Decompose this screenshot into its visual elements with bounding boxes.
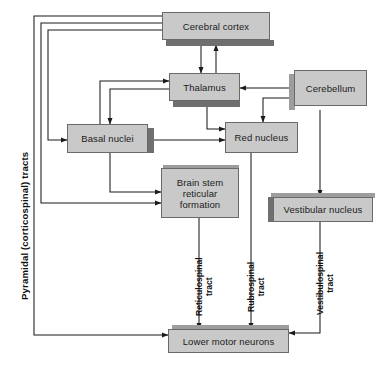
node-cerebral-cortex[interactable]: Cerebral cortex [162,12,270,40]
node-brain-stem-reticular-formation[interactable]: Brain stem reticular formation [161,168,239,218]
node-brain-stem-line-2: reticular [180,188,221,199]
node-red-nucleus[interactable]: Red nucleus [225,122,298,153]
basal-nuclei-shadow [148,128,154,153]
node-thalamus-label: Thalamus [180,82,229,93]
node-basal-nuclei-label: Basal nuclei [78,133,136,144]
pyramidal-tracts-label: Pyramidal (corticospinal) tracts [19,152,30,300]
node-lower-motor-neurons[interactable]: Lower motor neurons [168,329,289,353]
tract-vestibulospinal-line-2: tract [326,252,336,315]
tract-reticulospinal-line-2: tract [205,257,215,316]
node-red-nucleus-label: Red nucleus [232,132,292,143]
motor-pathway-diagram: Cerebral cortex Thalamus Cerebellum Basa… [0,0,390,369]
node-thalamus[interactable]: Thalamus [169,73,240,101]
node-lower-motor-neurons-label: Lower motor neurons [180,336,278,347]
node-brain-stem-line-1: Brain stem [174,177,226,188]
node-vestibular-nucleus-label: Vestibular nucleus [281,204,366,215]
cerebral-cortex-shadow [166,40,274,46]
node-brain-stem-line-3: formation [177,199,224,210]
tract-label-reticulospinal: Reticulospinal tract [195,257,214,316]
node-cerebellum[interactable]: Cerebellum [294,70,367,106]
thalamus-shadow [173,101,240,107]
tract-label-rubrospinal: Rubrospinal tract [247,262,266,312]
tract-rubrospinal-line-2: tract [257,262,267,312]
node-cerebral-cortex-label: Cerebral cortex [180,21,252,32]
node-vestibular-nucleus[interactable]: Vestibular nucleus [273,197,373,222]
node-cerebellum-label: Cerebellum [303,83,359,94]
tract-label-vestibulospinal: Vestibulospinal tract [316,252,335,315]
node-basal-nuclei[interactable]: Basal nuclei [67,124,148,153]
